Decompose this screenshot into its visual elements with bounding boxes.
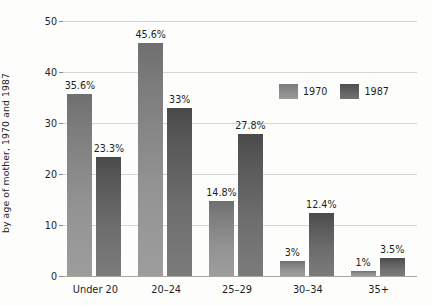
y-tick-mark: [59, 174, 63, 175]
legend-label: 1987: [364, 86, 388, 97]
y-tick-mark: [59, 72, 63, 73]
bar: 3.5%: [380, 258, 405, 276]
bar: 1%: [351, 271, 376, 276]
legend-entry: 1987: [340, 84, 388, 99]
bar-value-label: 3.5%: [380, 244, 404, 255]
y-tick-label: 10: [45, 220, 57, 231]
legend-swatch: [340, 84, 359, 99]
y-tick-label: 20: [45, 169, 57, 180]
x-axis-line: [63, 276, 417, 277]
bar-value-label: 35.6%: [65, 80, 95, 91]
bar: 35.6%: [67, 94, 92, 276]
legend: 19701987: [279, 84, 389, 99]
bar-value-label: 14.8%: [206, 187, 236, 198]
y-tick-mark: [59, 225, 63, 226]
legend-swatch: [279, 84, 298, 99]
bar-value-label: 3%: [285, 247, 300, 258]
bar-value-label: 45.6%: [135, 29, 165, 40]
y-tick-mark: [59, 123, 63, 124]
gridline: [63, 21, 417, 22]
y-tick-label: 0: [51, 271, 57, 282]
y-axis-title-line-2: by age of mother, 1970 and 1987: [0, 73, 13, 233]
y-tick-label: 40: [45, 67, 57, 78]
bar: 3%: [280, 261, 305, 276]
bar: 33%: [167, 108, 192, 276]
legend-entry: 1970: [279, 84, 327, 99]
bar-value-label: 33%: [169, 94, 190, 105]
gridline: [63, 72, 417, 73]
y-tick-mark: [59, 21, 63, 22]
bar-chart-figure: Percentage of first births by age of mot…: [0, 0, 432, 306]
x-axis-label: 35+: [368, 284, 389, 295]
bar: 12.4%: [309, 213, 334, 276]
x-axis-label: 30–34: [293, 284, 323, 295]
bar-value-label: 27.8%: [235, 120, 265, 131]
plot-area: 01020304050 35.6%23.3%45.6%33%14.8%27.8%…: [63, 21, 417, 276]
bar-value-label: 23.3%: [94, 143, 124, 154]
bar: 27.8%: [238, 134, 263, 276]
legend-label: 1970: [303, 86, 327, 97]
bar: 23.3%: [96, 157, 121, 276]
x-axis-label: Under 20: [73, 284, 118, 295]
y-tick-mark: [59, 276, 63, 277]
y-tick-label: 50: [45, 16, 57, 27]
bar-value-label: 12.4%: [306, 199, 336, 210]
bar: 45.6%: [138, 43, 163, 276]
y-axis-title: Percentage of first births by age of mot…: [0, 0, 36, 306]
y-tick-label: 30: [45, 118, 57, 129]
bar-value-label: 1%: [355, 257, 370, 268]
x-axis-label: 25–29: [222, 284, 252, 295]
x-axis-label: 20–24: [151, 284, 181, 295]
bar: 14.8%: [209, 201, 234, 276]
